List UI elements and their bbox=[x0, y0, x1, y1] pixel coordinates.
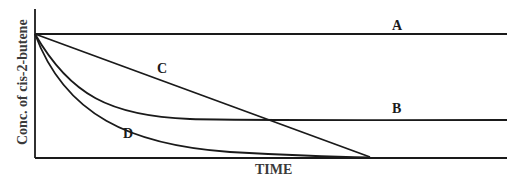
x-axis-label: TIME bbox=[255, 162, 292, 177]
curve-c bbox=[35, 34, 370, 157]
label-c: C bbox=[157, 61, 167, 76]
label-a: A bbox=[392, 18, 403, 33]
curve-b bbox=[35, 34, 507, 120]
label-b: B bbox=[392, 101, 401, 116]
kinetics-chart: A B C D TIME Conc. of cis-2-butene bbox=[0, 0, 525, 181]
label-d: D bbox=[123, 126, 133, 141]
y-axis-label: Conc. of cis-2-butene bbox=[15, 19, 30, 145]
